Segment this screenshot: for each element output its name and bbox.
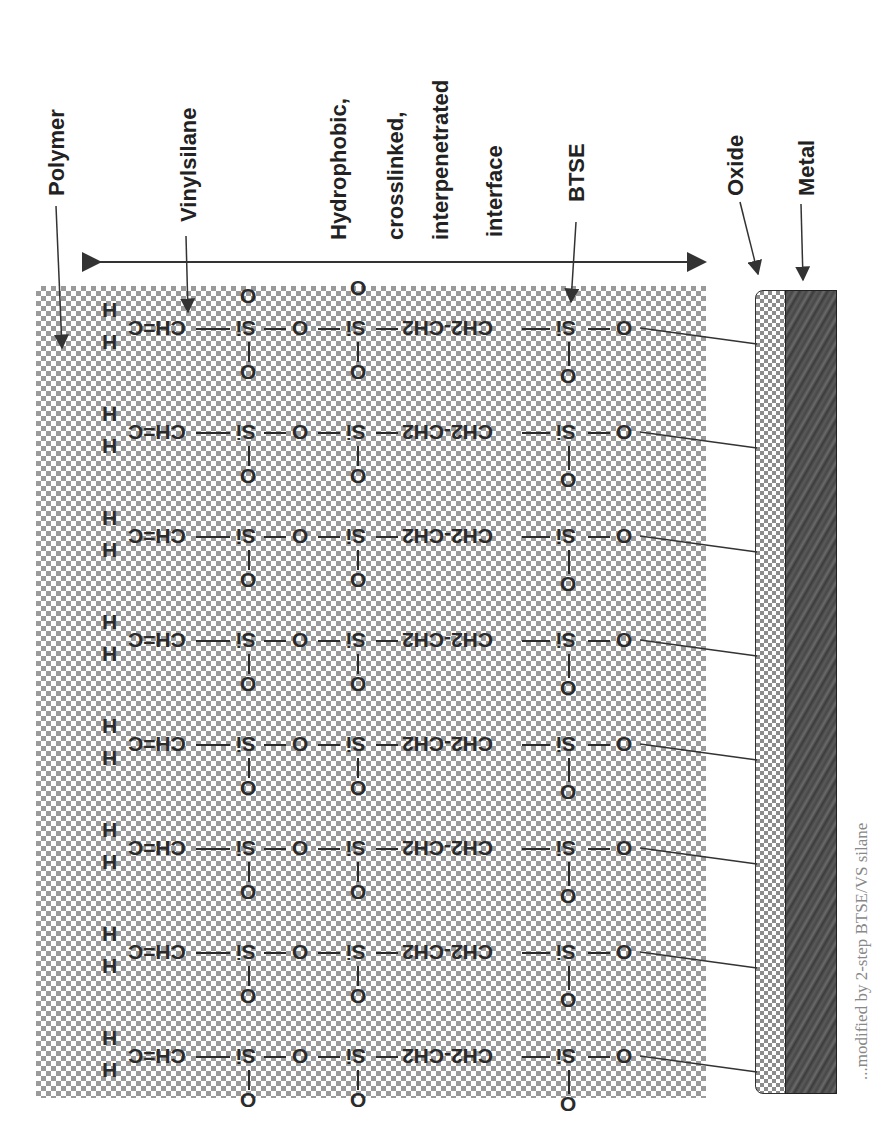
hydrogen-atom: H xyxy=(102,1060,117,1081)
bond xyxy=(568,654,570,678)
surface-bond xyxy=(640,952,757,968)
bond xyxy=(376,328,398,330)
oxygen-atom: O xyxy=(292,1046,308,1067)
bond xyxy=(376,848,398,850)
oxygen-atom: O xyxy=(350,882,366,903)
vinyl-group: CH=C xyxy=(128,422,186,443)
bond xyxy=(568,1070,570,1094)
oxygen-atom: O xyxy=(240,778,256,799)
silicon-atom: Si xyxy=(556,422,576,443)
bond xyxy=(196,536,230,538)
vinyl-group: CH=C xyxy=(128,630,186,651)
bond xyxy=(264,432,286,434)
bond xyxy=(248,758,250,778)
ethylene-bridge: CH2-CH2 xyxy=(402,422,493,443)
hydrogen-atom: H xyxy=(102,716,117,737)
bond xyxy=(588,640,610,642)
vinyl-group: CH=C xyxy=(128,942,186,963)
hydrogen-atom: H xyxy=(102,748,117,769)
hydrogen-atom: H xyxy=(102,924,117,945)
oxygen-atom: O xyxy=(292,942,308,963)
hydrogen-atom: H xyxy=(102,1028,117,1049)
bond xyxy=(264,952,286,954)
hydrogen-atom: H xyxy=(102,300,117,321)
bond xyxy=(568,446,570,470)
vinyl-group: CH=C xyxy=(128,838,186,859)
oxygen-atom: O xyxy=(350,278,366,299)
hydrogen-atom: H xyxy=(102,612,117,633)
bond xyxy=(568,550,570,574)
bond xyxy=(522,432,550,434)
bond xyxy=(522,328,550,330)
oxygen-atom: O xyxy=(350,466,366,487)
hydrogen-atom: H xyxy=(102,956,117,977)
bond xyxy=(357,1070,359,1090)
oxygen-atom: O xyxy=(292,318,308,339)
bond xyxy=(357,342,359,362)
oxygen-atom: O xyxy=(240,466,256,487)
silicon-atom: Si xyxy=(346,318,366,339)
bond xyxy=(588,848,610,850)
bond xyxy=(568,342,570,366)
surface-bond xyxy=(640,536,757,552)
ethylene-bridge: CH2-CH2 xyxy=(402,838,493,859)
bond xyxy=(264,1056,286,1058)
oxygen-atom: O xyxy=(240,286,256,307)
oxygen-atom: O xyxy=(350,674,366,695)
silicon-atom: Si xyxy=(346,942,366,963)
silicon-atom: Si xyxy=(346,1046,366,1067)
bond xyxy=(522,848,550,850)
oxygen-atom: O xyxy=(292,526,308,547)
hydrogen-atom: H xyxy=(102,852,117,873)
bond xyxy=(376,744,398,746)
oxygen-atom: O xyxy=(240,570,256,591)
oxygen-atom: O xyxy=(616,630,632,651)
silicon-atom: Si xyxy=(556,526,576,547)
bond xyxy=(357,966,359,986)
silicon-atom: Si xyxy=(556,838,576,859)
surface-bond xyxy=(640,744,757,760)
bond xyxy=(248,446,250,466)
bond xyxy=(196,432,230,434)
figure-caption: ...modified by 2-step BTSE/VS silane xyxy=(852,823,872,1080)
silicon-atom: Si xyxy=(346,630,366,651)
oxygen-atom: O xyxy=(616,1046,632,1067)
bond xyxy=(248,862,250,882)
bond xyxy=(588,432,610,434)
oxygen-atom: O xyxy=(560,782,576,803)
oxygen-atom: O xyxy=(616,318,632,339)
bond xyxy=(264,744,286,746)
hydrogen-atom: H xyxy=(102,332,117,353)
bond xyxy=(376,432,398,434)
hydrogen-atom: H xyxy=(102,644,117,665)
bond xyxy=(248,1070,250,1090)
oxygen-atom: O xyxy=(560,366,576,387)
oxygen-atom: O xyxy=(240,986,256,1007)
bond xyxy=(588,328,610,330)
bond xyxy=(522,1056,550,1058)
bond xyxy=(588,1056,610,1058)
oxygen-atom: O xyxy=(350,570,366,591)
hydrogen-atom: H xyxy=(102,436,117,457)
oxygen-atom: O xyxy=(240,882,256,903)
bond xyxy=(318,328,340,330)
bond xyxy=(376,1056,398,1058)
oxygen-atom: O xyxy=(616,942,632,963)
oxygen-atom: O xyxy=(560,1094,576,1115)
silicon-atom: Si xyxy=(556,734,576,755)
silicon-atom: Si xyxy=(346,838,366,859)
oxygen-atom: O xyxy=(616,734,632,755)
vinyl-group: CH=C xyxy=(128,318,186,339)
silicon-atom: Si xyxy=(556,318,576,339)
bond xyxy=(196,328,230,330)
ethylene-bridge: CH2-CH2 xyxy=(402,630,493,651)
bond xyxy=(264,640,286,642)
silicon-atom: Si xyxy=(346,422,366,443)
ethylene-bridge: CH2-CH2 xyxy=(402,734,493,755)
oxygen-atom: O xyxy=(350,1090,366,1111)
bond xyxy=(196,952,230,954)
oxygen-atom: O xyxy=(560,470,576,491)
bond xyxy=(264,536,286,538)
oxygen-atom: O xyxy=(560,574,576,595)
bond xyxy=(318,1056,340,1058)
